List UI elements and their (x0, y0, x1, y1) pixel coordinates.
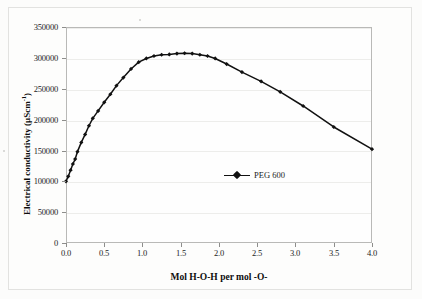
data-point-marker (68, 168, 72, 172)
y-tick-mark (62, 120, 66, 121)
scan-speck (139, 19, 141, 21)
y-axis-title: Electrical conductivity (µScm-1) (20, 54, 32, 254)
legend-label-peg-600: PEG 600 (254, 170, 285, 180)
x-tick-label: 1.0 (128, 248, 156, 258)
data-point-marker (198, 53, 202, 57)
series-layer (66, 27, 372, 243)
x-tick-mark (181, 243, 182, 247)
x-tick-label: 2.0 (205, 248, 233, 258)
x-tick-label: 0.0 (52, 248, 80, 258)
x-axis-title: Mol H-O-H per mol -O- (66, 272, 372, 282)
y-axis-title-exponent: -1 (20, 96, 27, 101)
x-tick-mark (219, 243, 220, 247)
y-tick-mark (62, 27, 66, 28)
x-tick-label: 3.5 (320, 248, 348, 258)
y-axis-title-container: Electrical conductivity (µScm-1) (14, 30, 28, 220)
scan-speck (3, 150, 5, 152)
x-tick-mark (66, 243, 67, 247)
data-point-marker (75, 150, 79, 154)
series-line-peg-600 (66, 53, 372, 181)
data-point-marker (182, 51, 186, 55)
data-point-marker (190, 51, 194, 55)
data-point-marker (160, 53, 164, 57)
y-tick-label: 0 (6, 238, 58, 248)
legend-swatch-peg-600 (224, 171, 250, 180)
data-point-marker (167, 52, 171, 56)
data-point-marker (205, 54, 209, 58)
data-point-marker (175, 51, 179, 55)
figure-canvas: 0 50000 100000 150000 200000 250000 3000… (0, 0, 422, 299)
x-tick-label: 4.0 (358, 248, 386, 258)
y-axis-title-paren: ) (22, 93, 32, 96)
data-point-marker (152, 54, 156, 58)
y-axis-title-unit: µScm (22, 101, 32, 123)
y-tick-mark (62, 181, 66, 182)
y-axis-title-text: Electrical conductivity ( (22, 123, 32, 215)
y-tick-mark (62, 89, 66, 90)
x-tick-label: 2.5 (243, 248, 271, 258)
x-tick-mark (334, 243, 335, 247)
series-markers-peg-600 (64, 51, 374, 183)
x-tick-mark (372, 243, 373, 247)
x-tick-label: 1.5 (167, 248, 195, 258)
legend: PEG 600 (224, 170, 285, 180)
y-tick-mark (62, 58, 66, 59)
x-tick-mark (104, 243, 105, 247)
x-tick-mark (257, 243, 258, 247)
y-tick-mark (62, 151, 66, 152)
x-tick-mark (295, 243, 296, 247)
y-tick-mark (62, 212, 66, 213)
x-tick-mark (142, 243, 143, 247)
x-tick-label: 3.0 (281, 248, 309, 258)
legend-diamond-marker-icon (233, 171, 241, 179)
x-tick-label: 0.5 (90, 248, 118, 258)
